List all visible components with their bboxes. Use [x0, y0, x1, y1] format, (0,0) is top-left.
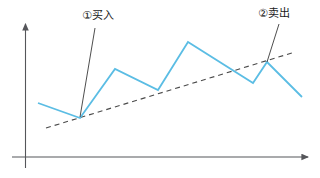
sell-leader-line [267, 24, 279, 62]
buy-leader-line [80, 28, 95, 117]
price-line [38, 42, 302, 118]
chart-canvas: ①买入 ②卖出 [0, 0, 320, 178]
buy-annotation-label: ①买入 [82, 9, 114, 22]
trendline-dashed [46, 52, 295, 128]
sell-annotation-label: ②卖出 [258, 7, 290, 20]
chart-graphic [0, 0, 320, 178]
